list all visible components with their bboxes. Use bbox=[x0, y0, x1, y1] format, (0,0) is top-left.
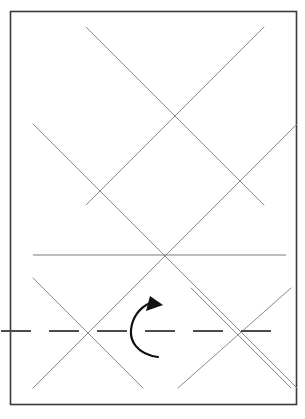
diagram-canvas bbox=[0, 0, 305, 419]
figure-page bbox=[0, 0, 305, 419]
